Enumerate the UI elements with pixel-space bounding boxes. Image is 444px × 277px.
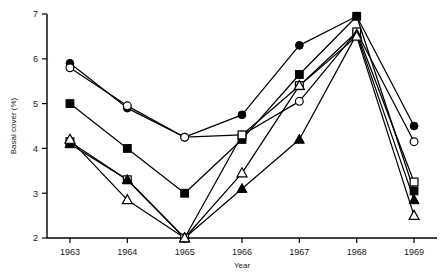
x-tick-label: 1968	[347, 247, 367, 257]
x-tick-label: 1964	[117, 247, 137, 257]
chart-plot-area: 2345671963196419651966196719681969YearBa…	[0, 0, 444, 277]
data-point-filled-triangle	[237, 183, 247, 192]
data-point-filled-square	[181, 189, 189, 197]
data-point-open-square	[238, 131, 246, 139]
y-tick-label: 5	[33, 99, 38, 109]
x-tick-label: 1966	[232, 247, 252, 257]
data-point-open-triangle	[409, 210, 419, 219]
y-tick-label: 7	[33, 9, 38, 19]
data-point-filled-triangle	[294, 134, 304, 143]
data-point-open-circle	[66, 64, 74, 72]
data-point-filled-square	[295, 71, 303, 79]
data-point-open-triangle	[237, 168, 247, 177]
y-tick-label: 6	[33, 54, 38, 64]
data-point-open-circle	[181, 133, 189, 141]
x-tick-label: 1967	[289, 247, 309, 257]
y-tick-label: 2	[33, 233, 38, 243]
data-point-filled-square	[66, 100, 74, 108]
y-axis-title: Basal cover (%)	[9, 97, 18, 154]
data-point-filled-circle	[295, 41, 303, 49]
x-tick-label: 1965	[175, 247, 195, 257]
data-point-filled-circle	[238, 111, 246, 119]
y-tick-label: 4	[33, 144, 38, 154]
data-point-filled-triangle	[409, 195, 419, 204]
basal-cover-chart: 2345671963196419651966196719681969YearBa…	[0, 0, 444, 277]
data-point-filled-circle	[410, 122, 418, 130]
x-tick-label: 1969	[404, 247, 424, 257]
x-axis-title: Year	[234, 261, 251, 270]
data-point-filled-square	[353, 12, 361, 20]
data-point-open-circle	[410, 138, 418, 146]
data-point-open-circle	[295, 97, 303, 105]
x-tick-label: 1963	[60, 247, 80, 257]
data-point-filled-square	[123, 145, 131, 153]
data-point-open-square	[410, 178, 418, 186]
y-tick-label: 3	[33, 189, 38, 199]
data-point-open-circle	[123, 102, 131, 110]
